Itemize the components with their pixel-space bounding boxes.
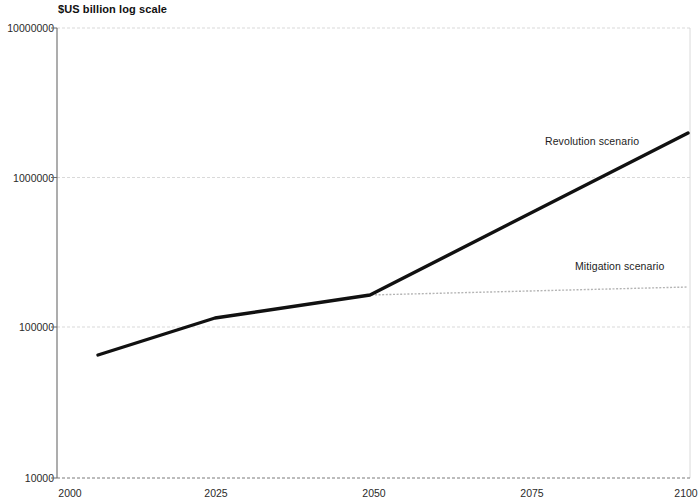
plot-area	[0, 0, 700, 501]
series-line-revolution	[98, 133, 688, 355]
chart-container: $US billion log scale 10000000 1000000 1…	[0, 0, 700, 501]
series-line-mitigation	[98, 287, 688, 355]
